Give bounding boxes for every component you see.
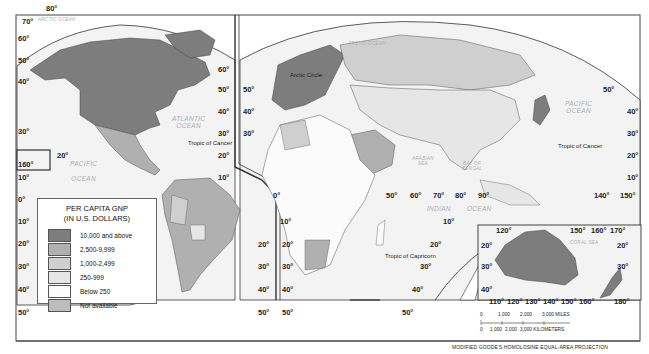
lat-label: 20° <box>258 241 269 249</box>
lat-label: 60° <box>18 35 29 43</box>
legend-swatch <box>48 285 71 298</box>
arctic-ocean-label-east: ARCTIC OCEAN <box>348 42 386 47</box>
tropic-of-capricorn-label: Tropic of Capricorn <box>385 253 436 259</box>
lon-label: 150° <box>620 192 636 200</box>
lon-label: 140° <box>543 298 559 306</box>
legend-item: 2,500-9,999 <box>48 242 156 256</box>
lon-label: 150° <box>561 298 577 306</box>
lon-label: 160° <box>591 227 607 235</box>
lat-label: 80° <box>46 5 57 13</box>
lat-label: 40° <box>627 108 638 116</box>
lat-label: 50° <box>603 86 614 94</box>
lat-label: 30° <box>420 263 431 271</box>
legend-swatch <box>48 299 71 312</box>
indian-ocean-label: INDIAN <box>427 205 451 212</box>
lat-label: 20° <box>218 152 229 160</box>
lat-label: 50° <box>282 309 293 317</box>
lon-label: 70° <box>433 192 444 200</box>
pacific-ocean-label-east: PACIFICOCEAN <box>565 100 592 114</box>
arctic-ocean-label-west: ARCTIC OCEAN <box>38 18 76 23</box>
lat-label: 20° <box>57 152 68 160</box>
lat-label: 10° <box>18 174 29 182</box>
lat-label: 10° <box>18 218 29 226</box>
lat-label: 20° <box>282 241 293 249</box>
lat-label: 30° <box>258 263 269 271</box>
lon-label: 120° <box>496 227 512 235</box>
lat-label: 40° <box>412 286 423 294</box>
lat-label: 10° <box>218 174 229 182</box>
indian-ocean-label-2: OCEAN <box>467 205 492 212</box>
legend-swatch <box>48 257 71 270</box>
lat-label: 50° <box>243 86 254 94</box>
lat-label: 40° <box>243 108 254 116</box>
pacific-ocean-label-west: PACIFICOCEAN <box>70 160 97 182</box>
coral-sea-label: CORAL SEA <box>570 241 598 246</box>
legend-item: Not available <box>48 298 156 312</box>
lat-label: 30° <box>617 263 628 271</box>
legend-swatch <box>48 229 71 242</box>
lat-label: 40° <box>18 78 29 86</box>
lat-label: 30° <box>481 263 492 271</box>
lon-label: 130° <box>525 298 541 306</box>
lon-label: 80° <box>455 192 466 200</box>
lat-label: 0° <box>18 196 25 204</box>
lat-label: 50° <box>18 309 29 317</box>
lat-label: 30° <box>18 263 29 271</box>
lat-label: 30° <box>627 130 638 138</box>
lon-label: 170° <box>610 227 626 235</box>
lat-label: 40° <box>481 286 492 294</box>
legend-swatch <box>48 243 71 256</box>
lat-label: 40° <box>18 286 29 294</box>
lat-label: 20° <box>481 242 492 250</box>
legend-item: 1,000-2,499 <box>48 256 156 270</box>
arabian-sea-label: ARABIANSEA <box>412 157 434 167</box>
lat-label: 50° <box>18 57 29 65</box>
legend-swatch <box>48 271 71 284</box>
lon-label: 50° <box>386 192 397 200</box>
lat-label: 70° <box>22 18 33 26</box>
lon-label: 180° <box>614 298 630 306</box>
lat-label: 40° <box>258 286 269 294</box>
lon-label: 160° <box>579 298 595 306</box>
lon-label: 160° <box>18 161 34 169</box>
lat-label: 30° <box>243 130 254 138</box>
lat-label: 10° <box>280 218 291 226</box>
lon-label: 0° <box>273 192 280 200</box>
lat-label: 20° <box>617 242 628 250</box>
bay-of-bengal-label: BAY OFBENGAL <box>462 162 482 172</box>
lon-label: 60° <box>410 192 421 200</box>
lat-label: 60° <box>218 66 229 74</box>
legend-item: 10,000 and above <box>48 228 156 242</box>
tropic-of-cancer-label-east: Tropic of Cancer <box>558 143 602 149</box>
lat-label: 20° <box>430 241 441 249</box>
legend-item: 250-999 <box>48 270 156 284</box>
lat-label: 20° <box>18 240 29 248</box>
lat-label: 30° <box>218 130 229 138</box>
lon-label: 150° <box>570 227 586 235</box>
lon-label: 120° <box>507 298 523 306</box>
tropic-of-cancer-label-west: Tropic of Cancer <box>188 140 232 146</box>
lat-label: 30° <box>18 128 29 136</box>
arctic-circle-label: Arctic Circle <box>290 72 322 78</box>
lon-label: 90° <box>478 192 489 200</box>
lat-label: 10° <box>627 174 638 182</box>
lat-label: 50° <box>218 86 229 94</box>
lat-label: 40° <box>282 286 293 294</box>
lat-label: 10° <box>443 218 454 226</box>
legend: PER CAPITA GNP (IN U.S. DOLLARS) 10,000 … <box>37 198 157 304</box>
lat-label: 20° <box>627 152 638 160</box>
lat-label: 50° <box>258 309 269 317</box>
legend-title: PER CAPITA GNP (IN U.S. DOLLARS) <box>38 204 156 224</box>
projection-caption: MODIFIED GOODE'S HOMOLOSINE EQUAL-AREA P… <box>452 344 608 350</box>
lon-label: 140° <box>594 192 610 200</box>
lat-label: 50° <box>402 309 413 317</box>
legend-item: Below 250 <box>48 284 156 298</box>
lat-label: 40° <box>218 108 229 116</box>
lat-label: 30° <box>282 263 293 271</box>
lon-label: 110° <box>489 298 504 306</box>
atlantic-ocean-label: ATLANTICOCEAN <box>172 115 205 129</box>
